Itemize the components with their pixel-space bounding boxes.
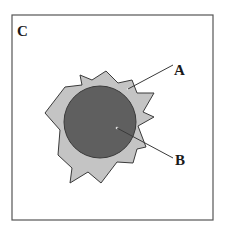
- panel-label: C: [17, 23, 28, 39]
- diagram-canvas: C A B: [0, 0, 225, 235]
- callout-a-label: A: [174, 62, 185, 78]
- inner-circle-core: [64, 86, 136, 158]
- callout-b-label: B: [175, 152, 185, 168]
